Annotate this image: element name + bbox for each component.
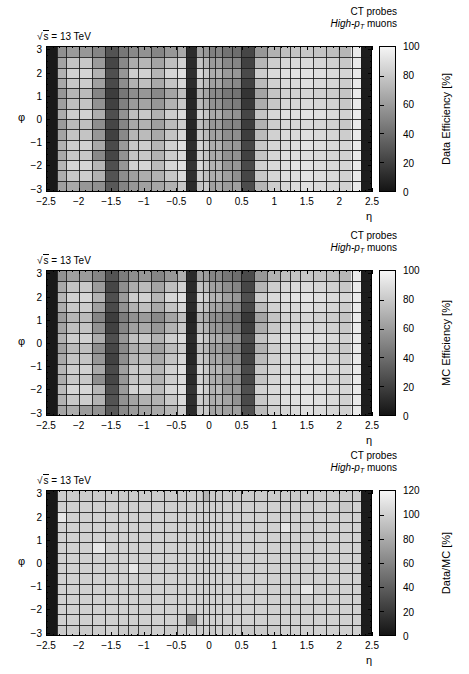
colorbar-tick <box>379 357 384 358</box>
heatmap-cell <box>47 573 57 583</box>
heatmap-cell <box>151 68 164 78</box>
x-tick-label: −0.5 <box>167 640 187 651</box>
heatmap-cell <box>326 353 339 363</box>
heatmap-cell <box>241 170 254 180</box>
x-tick-minor <box>294 634 295 636</box>
heatmap-cell <box>118 573 128 583</box>
heatmap-cell <box>151 491 164 501</box>
x-tick-minor <box>85 634 86 636</box>
heatmap-cell <box>92 302 105 312</box>
x-tick-minor <box>118 46 119 48</box>
x-tick-minor <box>346 634 347 636</box>
y-tick-minor <box>46 522 48 523</box>
x-tick-minor <box>92 46 93 48</box>
heatmap-cell <box>232 532 242 542</box>
y-tick-label: 3 <box>36 44 42 55</box>
x-tick <box>372 632 373 636</box>
heatmap-cell <box>280 281 290 291</box>
x-tick-minor <box>53 270 54 272</box>
x-tick-minor <box>268 634 269 636</box>
y-tick-label: 0 <box>36 558 42 569</box>
heatmap-cell <box>66 322 79 332</box>
heatmap-cell <box>338 333 351 343</box>
heatmap-cell <box>222 333 232 343</box>
heatmap-cell <box>232 384 242 394</box>
y-tick-minor <box>46 326 48 327</box>
heatmap-cell <box>164 573 177 583</box>
heatmap-cell <box>361 374 371 384</box>
heatmap-cell <box>92 281 105 291</box>
y-tick-minor <box>46 67 48 68</box>
heatmap-cell <box>92 47 105 57</box>
heatmap-cell <box>300 129 313 139</box>
heatmap-cell <box>300 98 313 108</box>
heatmap-cell <box>118 584 128 594</box>
x-tick-minor <box>189 490 190 492</box>
x-tick-minor <box>53 190 54 192</box>
heatmap-cell <box>186 78 196 88</box>
heatmap-cell <box>92 68 105 78</box>
heatmap-cell <box>47 119 57 129</box>
heatmap-cell <box>300 364 313 374</box>
x-tick-label: −1.5 <box>101 196 121 207</box>
y-tick-minor <box>46 285 48 286</box>
x-tick-minor <box>66 414 67 416</box>
colorbar-tick <box>379 300 384 301</box>
heatmap-cell <box>290 160 300 170</box>
heatmap-cell <box>222 614 232 624</box>
y-tick-minor <box>46 171 48 172</box>
heatmap-cell <box>267 88 280 98</box>
y-tick <box>368 493 372 494</box>
heatmap-cell <box>267 522 280 532</box>
heatmap-cell <box>241 68 254 78</box>
heatmap-cell <box>351 57 361 67</box>
heatmap-cell <box>118 333 128 343</box>
x-tick <box>242 632 243 636</box>
heatmap-cell <box>290 129 300 139</box>
heatmap-cell <box>138 343 151 353</box>
heatmap-cell <box>92 98 105 108</box>
heatmap-cell <box>338 322 351 332</box>
heatmap-cell <box>128 384 138 394</box>
heatmap-cell <box>186 170 196 180</box>
x-tick-minor <box>313 634 314 636</box>
y-tick-minor <box>46 113 48 114</box>
heatmap-cell <box>267 384 280 394</box>
x-tick-minor <box>92 414 93 416</box>
heatmap-cell <box>241 98 254 108</box>
heatmap-cell <box>105 98 118 108</box>
heatmap-cell <box>241 160 254 170</box>
x-tick-minor <box>235 414 236 416</box>
x-tick-minor <box>163 46 164 48</box>
heatmap-cell <box>66 553 79 563</box>
heatmap-cell <box>138 119 151 129</box>
heatmap-cell <box>186 140 196 150</box>
heatmap-cell <box>351 491 361 501</box>
heatmap-cell <box>47 353 57 363</box>
x-tick-minor <box>346 190 347 192</box>
heatmap-cell <box>47 522 57 532</box>
x-tick-minor <box>359 190 360 192</box>
heatmap-cell <box>128 604 138 614</box>
heatmap-cell <box>177 614 187 624</box>
x-tick-minor <box>98 634 99 636</box>
heatmap-cell <box>222 68 232 78</box>
annotation-muons-text: muons <box>364 18 397 29</box>
heatmap-cell <box>105 333 118 343</box>
heatmap-cell <box>57 160 67 170</box>
heatmap-cell <box>222 281 232 291</box>
heatmap-cell <box>241 394 254 404</box>
colorbar-tick <box>379 133 384 134</box>
colorbar-title: Data Efficiency [%] <box>438 46 454 192</box>
heatmap-cell <box>177 281 187 291</box>
heatmap-cell <box>290 364 300 374</box>
y-tick-minor <box>370 67 372 68</box>
heatmap-cell <box>254 119 267 129</box>
heatmap-cell <box>280 604 290 614</box>
heatmap-cell <box>138 292 151 302</box>
heatmap-cell <box>232 594 242 604</box>
heatmap-cell <box>47 542 57 552</box>
y-tick-minor <box>370 551 372 552</box>
heatmap-cell <box>254 542 267 552</box>
heatmap-cell <box>164 292 177 302</box>
